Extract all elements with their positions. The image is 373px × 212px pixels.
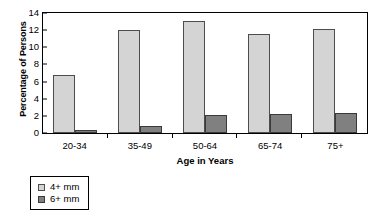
bar-pair — [302, 13, 367, 133]
legend-item[interactable]: 4+ mm — [38, 181, 79, 193]
legend-item[interactable]: 6+ mm — [38, 193, 79, 205]
bar-pair — [108, 13, 173, 133]
legend-item-label: 4+ mm — [50, 182, 79, 192]
bar-6-mm[interactable] — [335, 113, 357, 133]
bar-6-mm[interactable] — [205, 115, 227, 133]
bar-pair — [173, 13, 238, 133]
plot-area: 02468101214 — [42, 12, 368, 134]
legend-item-label: 6+ mm — [50, 194, 79, 204]
y-axis-title: Percentage of Persons — [18, 0, 28, 139]
bar-group — [302, 13, 367, 133]
x-axis-tick-label: 50-64 — [172, 140, 237, 151]
y-axis-tick-label: 12 — [28, 25, 39, 35]
bar-4-mm[interactable] — [118, 30, 140, 133]
x-axis-tick-label: 20-34 — [42, 140, 107, 151]
dark-gray-swatch — [38, 196, 45, 203]
x-axis-title: Age in Years — [42, 155, 368, 166]
y-axis-tick-label: 10 — [28, 43, 39, 53]
bar-4-mm[interactable] — [248, 34, 270, 133]
bar-group — [108, 13, 173, 133]
y-axis-tick-label: 14 — [28, 8, 39, 18]
light-gray-swatch — [38, 184, 45, 191]
bar-pair — [43, 13, 108, 133]
x-axis-tick-mark — [107, 133, 108, 138]
bar-series-container — [43, 13, 367, 133]
bar-4-mm[interactable] — [313, 29, 335, 133]
x-axis-tick-mark — [236, 133, 237, 138]
bar-6-mm[interactable] — [140, 126, 162, 133]
bar-6-mm[interactable] — [270, 114, 292, 133]
y-axis-tick-label: 2 — [34, 111, 39, 121]
y-axis-tick-label: 0 — [34, 128, 39, 138]
x-axis-tick-mark — [301, 133, 302, 138]
y-axis-tick-label: 4 — [34, 94, 39, 104]
bar-4-mm[interactable] — [183, 21, 205, 133]
bar-6-mm[interactable] — [75, 130, 97, 133]
y-axis-tick-label: 8 — [34, 60, 39, 70]
x-axis-tick-label: 65-74 — [238, 140, 303, 151]
bar-group — [237, 13, 302, 133]
bar-pair — [237, 13, 302, 133]
x-axis-tick-mark — [172, 133, 173, 138]
x-axis-tick-label: 75+ — [303, 140, 368, 151]
x-axis-tick-label: 35-49 — [107, 140, 172, 151]
y-axis-tick-label: 6 — [34, 77, 39, 87]
chart-legend: 4+ mm6+ mm — [30, 176, 89, 210]
bar-group — [43, 13, 108, 133]
bar-4-mm[interactable] — [53, 75, 75, 133]
bar-chart-figure: Percentage of Persons 02468101214 20-343… — [0, 0, 373, 212]
bar-group — [173, 13, 238, 133]
x-axis-tick-labels: 20-3435-4950-6465-7475+ — [42, 140, 368, 151]
